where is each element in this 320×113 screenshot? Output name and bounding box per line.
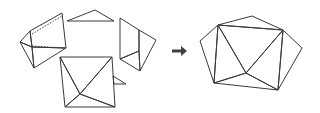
assembled-polyhedron	[200, 16, 302, 90]
small-side-triangle	[113, 76, 126, 84]
left-folded-piece	[20, 13, 66, 68]
arrow-right-icon	[172, 46, 187, 56]
diagram-canvas	[0, 0, 320, 113]
right-folded-piece	[120, 18, 156, 71]
top-triangle	[67, 10, 114, 21]
diagram-svg	[0, 0, 320, 113]
bottom-pyramid-square	[60, 57, 115, 107]
